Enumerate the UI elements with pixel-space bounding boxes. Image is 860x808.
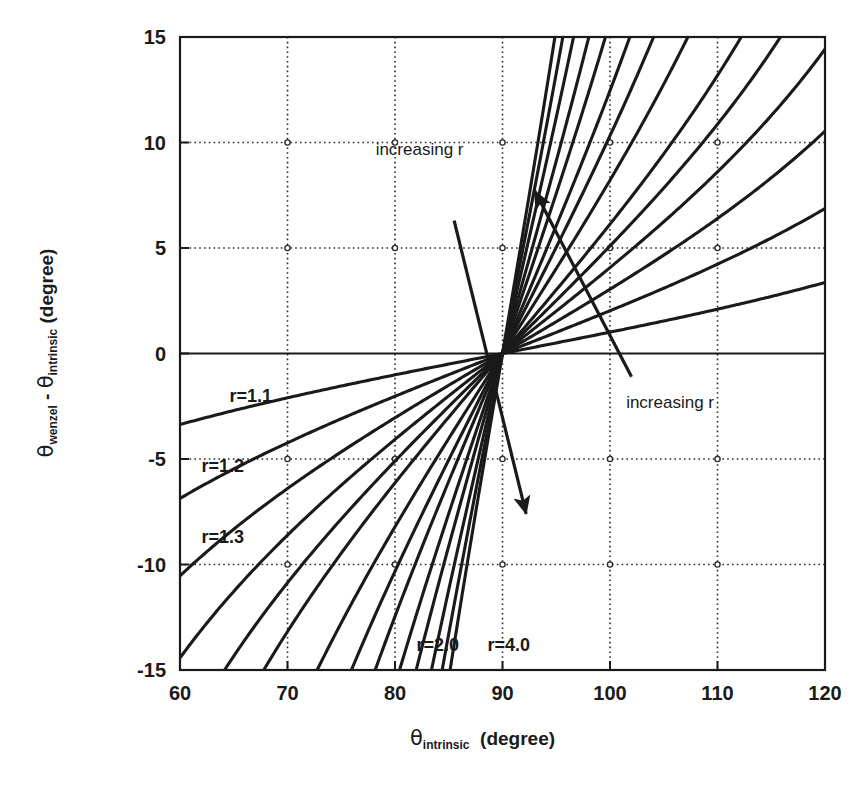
chart-plot-area: 60708090100110120151050-5-10-15increasin… bbox=[0, 0, 860, 808]
curve-label-r-2-0: r=2.0 bbox=[417, 635, 460, 655]
grid-intersection-marker bbox=[500, 140, 505, 145]
grid-intersection-marker bbox=[285, 140, 290, 145]
y-axis-tick-label: -10 bbox=[137, 554, 166, 576]
x-axis-tick-label: 110 bbox=[701, 682, 733, 704]
x-axis-unit: (degree) bbox=[480, 728, 555, 749]
grid-intersection-marker bbox=[715, 562, 720, 567]
increasing-r-lower: increasing r bbox=[626, 393, 714, 412]
curve-label-r-1-2: r=1.2 bbox=[202, 456, 245, 476]
y-axis-title: θwenzel - θintrinsic (degree) bbox=[34, 188, 60, 518]
y-axis-tick-label: -15 bbox=[137, 659, 166, 681]
grid-intersection-marker bbox=[500, 562, 505, 567]
grid-intersection-marker bbox=[715, 245, 720, 250]
x-axis-tick-label: 80 bbox=[384, 682, 406, 704]
x-axis-tick-label: 100 bbox=[593, 682, 626, 704]
curve-label-r-4-0: r=4.0 bbox=[487, 635, 530, 655]
x-axis-tick-label: 70 bbox=[276, 682, 298, 704]
y-axis-minus: - bbox=[36, 394, 57, 400]
grid-intersection-marker bbox=[285, 245, 290, 250]
y-axis-theta-1: θ bbox=[34, 445, 58, 458]
y-axis-tick-label: 10 bbox=[144, 132, 166, 154]
y-axis-theta-2: θ bbox=[34, 375, 58, 388]
grid-intersection-marker bbox=[285, 456, 290, 461]
y-axis-unit: (degree) bbox=[36, 249, 57, 324]
grid-intersection-marker bbox=[500, 456, 505, 461]
x-axis-title: θintrinsic (degree) bbox=[410, 726, 555, 752]
curve-label-r-1-3: r=1.3 bbox=[202, 527, 245, 547]
grid-intersection-marker bbox=[285, 562, 290, 567]
curve-group bbox=[180, 0, 825, 712]
y-axis-tick-label: 5 bbox=[155, 237, 166, 259]
x-axis-tick-label: 60 bbox=[169, 682, 191, 704]
grid-intersection-marker bbox=[500, 245, 505, 250]
y-axis-tick-label: 15 bbox=[144, 26, 166, 48]
grid-intersection-marker bbox=[715, 140, 720, 145]
y-axis-subscript-wenzel: wenzel bbox=[46, 405, 60, 444]
increasing-r-upper: increasing r bbox=[376, 140, 464, 159]
grid-intersection-marker bbox=[607, 562, 612, 567]
grid-intersection-marker bbox=[607, 456, 612, 461]
x-axis-subscript-intrinsic: intrinsic bbox=[423, 738, 470, 752]
x-axis-theta: θ bbox=[410, 726, 423, 750]
grid-intersection-marker bbox=[715, 456, 720, 461]
y-axis-tick-label: -5 bbox=[148, 448, 166, 470]
x-axis-tick-label: 90 bbox=[491, 682, 513, 704]
y-axis-subscript-intrinsic: intrinsic bbox=[46, 329, 60, 376]
grid-intersection-marker bbox=[392, 245, 397, 250]
x-axis-tick-label: 120 bbox=[808, 682, 841, 704]
wenzel-angle-chart-figure: 60708090100110120151050-5-10-15increasin… bbox=[0, 0, 860, 808]
curve-label-r-1-1: r=1.1 bbox=[229, 386, 272, 406]
y-axis-tick-label: 0 bbox=[155, 343, 166, 365]
